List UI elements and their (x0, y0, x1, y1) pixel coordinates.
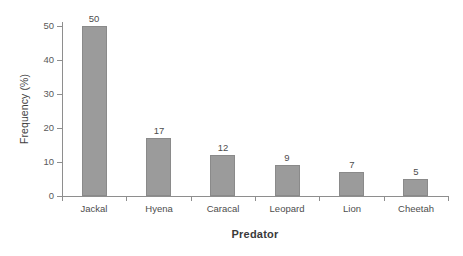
x-tick-label: Lion (320, 203, 384, 214)
y-axis-title: Frequency (%) (18, 14, 34, 204)
x-tick (448, 196, 449, 201)
y-tick (57, 26, 62, 27)
x-tick-label: Jackal (62, 203, 126, 214)
x-tick-label: Hyena (127, 203, 191, 214)
y-tick-label-wrap: 20 (14, 123, 54, 133)
y-tick-label-wrap: 50 (14, 21, 54, 31)
y-tick-label: 10 (16, 157, 54, 167)
x-tick (191, 196, 192, 201)
bar-chart: Frequency (%) 01020304050 501712975 Jack… (0, 0, 463, 256)
x-tick (319, 196, 320, 201)
bar-value-label: 9 (267, 152, 307, 163)
y-tick (57, 94, 62, 95)
y-tick-label: 50 (16, 21, 54, 31)
y-tick-label-wrap: 10 (14, 157, 54, 167)
y-tick-label-wrap: 40 (14, 55, 54, 65)
bar (339, 172, 364, 196)
bar-value-label: 17 (139, 125, 179, 136)
bar-value-label: 5 (396, 166, 436, 177)
y-tick-label: 20 (16, 123, 54, 133)
bar-value-label: 12 (203, 142, 243, 153)
bar (210, 155, 235, 196)
x-tick (255, 196, 256, 201)
y-tick (57, 128, 62, 129)
bar (275, 165, 300, 196)
y-tick (57, 60, 62, 61)
x-axis-title: Predator (62, 228, 448, 240)
y-axis-line (62, 22, 63, 200)
x-tick (126, 196, 127, 201)
bar (146, 138, 171, 196)
x-tick (384, 196, 385, 201)
y-tick-label-wrap: 0 (14, 191, 54, 201)
bar-value-label: 7 (332, 159, 372, 170)
y-tick-label-wrap: 30 (14, 89, 54, 99)
y-tick-label: 30 (16, 89, 54, 99)
bar (403, 179, 428, 196)
y-tick-label: 0 (16, 191, 54, 201)
y-tick (57, 162, 62, 163)
x-tick-label: Caracal (191, 203, 255, 214)
bar (82, 26, 107, 196)
x-tick (62, 196, 63, 201)
x-tick-label: Cheetah (384, 203, 448, 214)
y-tick-label: 40 (16, 55, 54, 65)
x-tick-label: Leopard (255, 203, 319, 214)
bar-value-label: 50 (74, 13, 114, 24)
